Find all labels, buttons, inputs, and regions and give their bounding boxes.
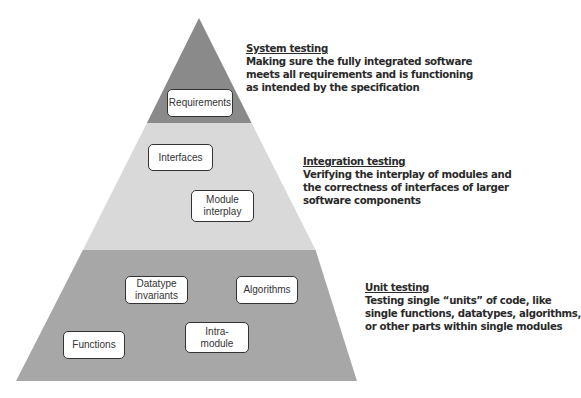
requirements-box: Requirements: [167, 89, 233, 117]
unit-testing-band: [16, 250, 357, 381]
datatype-invariants-box: Datatype invariants: [125, 276, 188, 304]
description-line: software components: [303, 194, 511, 207]
system-testing-title: System testing: [246, 42, 473, 55]
description-line: the correctness of interfaces of larger: [303, 181, 511, 194]
integration-testing-title: Integration testing: [303, 155, 511, 168]
module-interplay-box: Module interplay: [191, 190, 254, 222]
algorithms-box: Algorithms: [236, 276, 298, 304]
unit-testing-description: Unit testing Testing single “units” of c…: [365, 281, 581, 333]
description-line: Making sure the fully integrated softwar…: [246, 55, 473, 68]
unit-testing-title: Unit testing: [365, 281, 581, 294]
functions-box: Functions: [63, 331, 125, 359]
system-testing-description: System testing Making sure the fully int…: [246, 42, 473, 94]
interfaces-box: Interfaces: [148, 144, 213, 171]
description-line: meets all requirements and is functionin…: [246, 68, 473, 81]
description-line: Testing single “units” of code, like: [365, 294, 581, 307]
integration-testing-band: [83, 123, 316, 250]
intra-module-box: Intra- module: [185, 322, 249, 353]
description-line: single functions, datatypes, algorithms,: [365, 307, 581, 320]
integration-testing-description: Integration testing Verifying the interp…: [303, 155, 511, 207]
description-line: or other parts within single modules: [365, 320, 581, 333]
description-line: Verifying the interplay of modules and: [303, 168, 511, 181]
description-line: as intended by the specification: [246, 81, 473, 94]
